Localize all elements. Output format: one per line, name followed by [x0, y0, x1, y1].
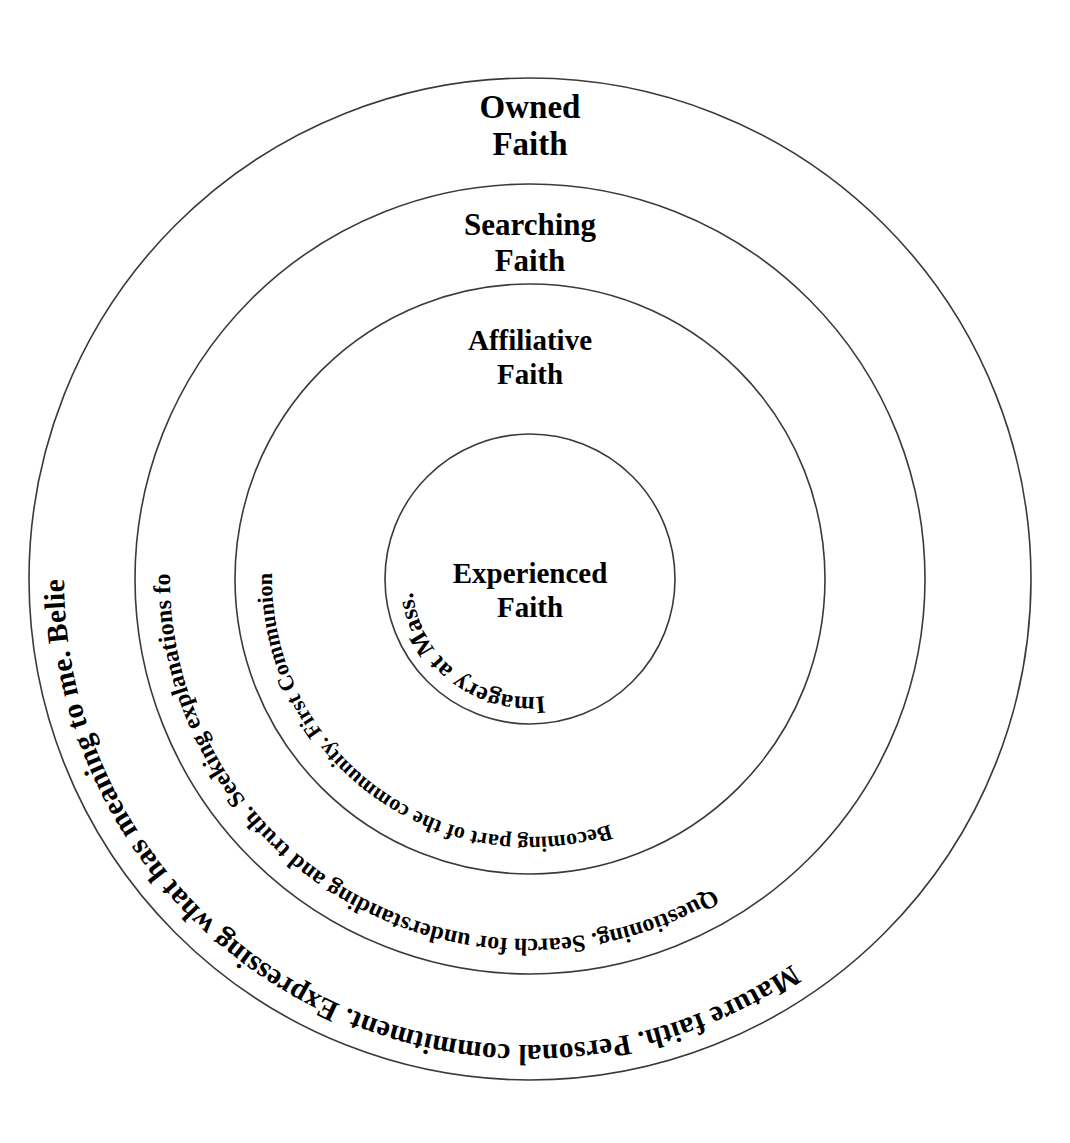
stage-label-experienced-faith-line2: Faith — [497, 591, 563, 623]
stage-label-affiliative-faith: Affiliative Faith — [468, 324, 592, 390]
concentric-circles-canvas: Mature faith. Personal commitment. Expre… — [0, 0, 1070, 1143]
stage-label-owned-faith-line2: Faith — [492, 126, 567, 162]
stage-label-experienced-faith: Experienced Faith — [453, 557, 608, 623]
stage-label-owned-faith: Owned Faith — [480, 89, 581, 162]
stage-label-affiliative-faith-line1: Affiliative — [468, 324, 592, 356]
stage-label-searching-faith-line2: Faith — [495, 243, 566, 278]
stage-label-searching-faith-line1: Searching — [464, 207, 597, 242]
faith-stages-diagram: Mature faith. Personal commitment. Expre… — [0, 0, 1070, 1143]
stage-label-affiliative-faith-line2: Faith — [497, 358, 563, 390]
stage-label-searching-faith: Searching Faith — [464, 207, 597, 278]
stage-label-experienced-faith-line1: Experienced — [453, 557, 608, 589]
stage-label-owned-faith-line1: Owned — [480, 89, 581, 125]
